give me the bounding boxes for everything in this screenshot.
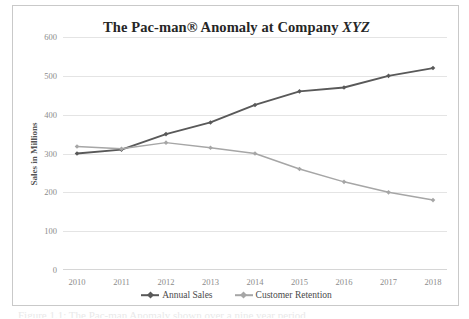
legend-entry[interactable]: Annual Sales: [141, 290, 212, 300]
chart-title-emphasis: XYZ: [342, 19, 370, 35]
x-tick-label: 2012: [158, 277, 175, 287]
data-point-marker: [297, 89, 302, 94]
y-tick-label: 0: [53, 265, 57, 275]
data-point-marker: [431, 198, 436, 203]
y-tick-label: 600: [44, 32, 57, 42]
series-annual-sales: [75, 66, 436, 156]
x-tick-label: 2013: [202, 277, 219, 287]
y-axis-title: Sales in Millions: [27, 37, 39, 270]
x-tick-label: 2010: [69, 277, 86, 287]
legend-label: Annual Sales: [162, 290, 212, 300]
data-point-marker: [386, 74, 391, 79]
y-tick-label: 500: [44, 71, 57, 81]
legend-diamond-marker-icon: [147, 291, 154, 298]
legend-entry[interactable]: Customer Retention: [235, 290, 332, 300]
figure-caption-sliver: Figure 1.1: The Pac-man Anomaly shown ov…: [18, 309, 438, 318]
data-point-marker: [431, 66, 436, 71]
legend-swatch: [235, 291, 253, 299]
y-tick-label: 400: [44, 110, 57, 120]
data-series-layer: [63, 37, 447, 270]
legend-swatch: [141, 291, 159, 299]
data-point-marker: [297, 167, 302, 172]
series-customer-retention: [75, 140, 436, 202]
y-axis-title-label: Sales in Millions: [28, 122, 38, 185]
data-point-marker: [342, 85, 347, 90]
figure-container: The Pac-man® Anomaly at Company XYZ Sale…: [0, 0, 469, 319]
legend-label: Customer Retention: [256, 290, 332, 300]
x-tick-label: 2018: [425, 277, 442, 287]
chart-title-main: The Pac-man® Anomaly at Company: [103, 19, 342, 35]
data-point-marker: [75, 144, 80, 149]
x-tick-label: 2015: [291, 277, 308, 287]
x-tick-label: 2017: [380, 277, 397, 287]
chart-legend: Annual SalesCustomer Retention: [13, 290, 460, 300]
data-point-marker: [253, 151, 258, 156]
data-point-marker: [75, 151, 80, 156]
x-tick-label: 2014: [247, 277, 264, 287]
data-point-marker: [342, 180, 347, 185]
data-point-marker: [164, 140, 169, 145]
x-tick-label: 2016: [336, 277, 353, 287]
y-tick-label: 300: [44, 149, 57, 159]
plot-area: 6005004003002001000 20102011201220132014…: [63, 37, 447, 270]
y-tick-label: 100: [44, 226, 57, 236]
series-line: [77, 68, 433, 153]
data-point-marker: [208, 145, 213, 150]
data-point-marker: [164, 132, 169, 137]
x-tick-label: 2011: [113, 277, 130, 287]
chart-frame: The Pac-man® Anomaly at Company XYZ Sale…: [12, 5, 459, 306]
chart-title: The Pac-man® Anomaly at Company XYZ: [13, 19, 460, 36]
legend-diamond-marker-icon: [240, 291, 247, 298]
y-tick-label: 200: [44, 187, 57, 197]
data-point-marker: [386, 190, 391, 195]
